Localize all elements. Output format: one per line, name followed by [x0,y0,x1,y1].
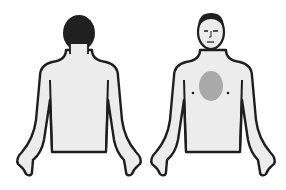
front-view-figure [151,13,275,175]
back-body-outline [17,50,141,175]
back-neck [70,44,88,54]
front-left-nipple [192,92,195,95]
back-view-figure [17,15,141,175]
front-right-nipple [227,92,230,95]
body-diagram [0,0,286,190]
pain-region-chest [199,71,223,101]
front-body-outline [151,50,275,175]
